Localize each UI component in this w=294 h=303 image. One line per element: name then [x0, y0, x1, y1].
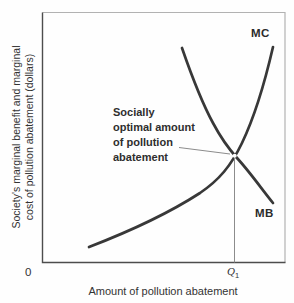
mb-curve	[182, 48, 273, 203]
y-axis-label-line2: cost of pollution abatement (dollars)	[23, 7, 36, 267]
q1-symbol: Q	[227, 265, 235, 277]
annotation-line-4: abatement	[113, 150, 195, 165]
equilibrium-point	[233, 154, 237, 158]
annotation-line-1: Socially	[113, 105, 195, 120]
x-axis-label: Amount of pollution abatement	[30, 285, 294, 297]
y-axis-label-line1: Society's marginal benefit and marginal	[10, 7, 23, 267]
q1-tick-label: Q1	[227, 265, 239, 280]
annotation-line-2: optimal amount	[113, 120, 195, 135]
mc-curve-label: MC	[251, 27, 270, 39]
pollution-abatement-chart: Society's marginal benefit and marginal …	[0, 0, 294, 303]
mb-curve-label: MB	[255, 207, 274, 219]
q1-subscript: 1	[235, 271, 239, 280]
origin-tick-label: 0	[25, 266, 31, 278]
equilibrium-annotation: Socially optimal amount of pollution aba…	[113, 105, 195, 165]
annotation-line-3: of pollution	[113, 135, 195, 150]
y-axis-label: Society's marginal benefit and marginal …	[10, 7, 36, 267]
